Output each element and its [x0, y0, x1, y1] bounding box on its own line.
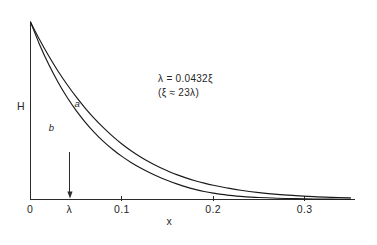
lambda-relation-annotation: λ = 0.0432ξ (ξ ≈ 23λ) — [158, 72, 213, 100]
curve-a-label: a — [74, 98, 80, 109]
annotation-line-1: λ = 0.0432ξ — [158, 72, 213, 86]
x-tick-label-0-1: 0.1 — [114, 203, 130, 215]
y-axis-label: H — [17, 100, 25, 112]
x-tick-label-0: 0 — [27, 203, 33, 215]
x-tick-label-0-2: 0.2 — [205, 203, 221, 215]
curve-a — [31, 22, 351, 198]
curve-b-label: b — [49, 122, 55, 133]
x-tick-label-0-3: 0.3 — [297, 203, 313, 215]
figure-container: H x a b 0 λ 0.1 0.2 0.3 λ = 0.0432ξ (ξ ≈… — [0, 0, 377, 245]
x-tick-label-lambda: λ — [66, 203, 72, 215]
lambda-arrow-icon — [67, 152, 72, 199]
annotation-line-2: (ξ ≈ 23λ) — [158, 86, 213, 100]
curve-b — [31, 22, 351, 199]
chart-canvas — [0, 0, 377, 245]
x-axis-title: x — [166, 215, 172, 227]
